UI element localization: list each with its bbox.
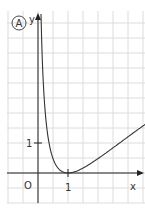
- axes: [7, 13, 144, 203]
- origin-label: O: [24, 180, 32, 191]
- grid: [7, 11, 145, 203]
- function-graph: A y x O 1 1: [0, 0, 145, 208]
- x-tick-label: 1: [65, 182, 71, 193]
- y-axis-arrow-icon: [35, 13, 41, 20]
- y-tick-label: 1: [26, 138, 32, 149]
- panel-label: A: [16, 18, 23, 29]
- y-axis-label: y: [29, 14, 35, 25]
- x-axis-label: x: [130, 181, 136, 192]
